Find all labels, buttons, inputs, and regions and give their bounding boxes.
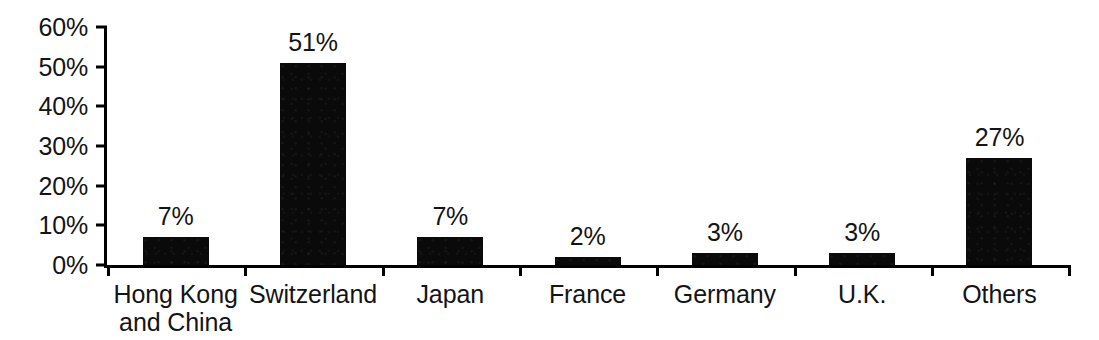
x-axis-tick-mark (244, 265, 247, 276)
x-axis-category-label: Others (962, 280, 1036, 308)
y-axis-tick-mark (96, 224, 107, 227)
x-axis-category-label: Hong Kong and China (114, 280, 238, 336)
x-axis-tick-mark (656, 265, 659, 276)
plot-area: 7%Hong Kong and China51%Switzerland7%Jap… (107, 0, 1099, 340)
y-axis-tick-mark (96, 145, 107, 148)
x-axis-category-label: Switzerland (249, 280, 377, 308)
y-axis-tick-label: 60% (2, 15, 88, 40)
bar-value-label: 7% (432, 204, 468, 229)
bar-value-label: 3% (844, 220, 880, 245)
x-axis-category-label: Germany (674, 280, 776, 308)
bar (280, 63, 346, 265)
x-axis-tick-mark (931, 265, 934, 276)
bar (417, 237, 483, 265)
y-axis-tick-mark (96, 264, 107, 267)
y-axis-tick-label: 50% (2, 54, 88, 79)
bar (966, 158, 1032, 265)
y-axis-tick-mark (96, 105, 107, 108)
x-axis-category-label: U.K. (838, 280, 886, 308)
y-axis: 0%10%20%30%40%50%60% (0, 0, 107, 340)
y-axis-tick-mark (96, 26, 107, 29)
bar (829, 253, 895, 265)
bar-value-label: 7% (158, 204, 194, 229)
x-axis-category-label: France (549, 280, 626, 308)
x-axis-spine (107, 265, 1069, 268)
y-axis-tick-mark (96, 65, 107, 68)
y-axis-tick-label: 30% (2, 134, 88, 159)
bar-value-label: 2% (570, 224, 606, 249)
bar (692, 253, 758, 265)
y-axis-tick-label: 10% (2, 213, 88, 238)
x-axis-tick-mark (1068, 265, 1071, 276)
bar (555, 257, 621, 265)
x-axis-tick-mark (794, 265, 797, 276)
bar-value-label: 27% (975, 125, 1024, 150)
y-axis-tick-label: 20% (2, 173, 88, 198)
bar-value-label: 51% (288, 30, 337, 55)
x-axis-tick-mark (382, 265, 385, 276)
x-axis-tick-mark (519, 265, 522, 276)
y-axis-tick-mark (96, 184, 107, 187)
x-axis-tick-mark (107, 265, 110, 276)
x-axis-category-label: Japan (416, 280, 484, 308)
bar-value-label: 3% (707, 220, 743, 245)
bar-chart: 0%10%20%30%40%50%60% 7%Hong Kong and Chi… (0, 0, 1099, 340)
y-axis-tick-label: 40% (2, 94, 88, 119)
y-axis-tick-label: 0% (2, 253, 88, 278)
bar (143, 237, 209, 265)
